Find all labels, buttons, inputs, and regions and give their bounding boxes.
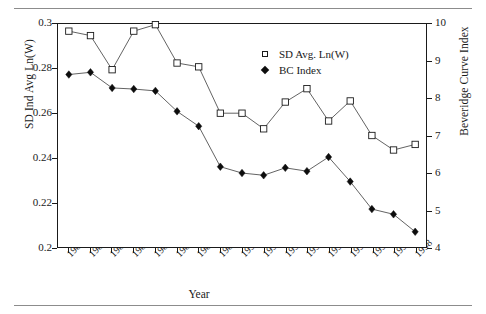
y-tick-label-left-text: 0.3 [18,17,52,28]
y-tick-left [52,248,57,249]
data-point-sd-avg [390,147,396,153]
data-point-sd-avg [87,32,93,38]
data-point-sd-avg [260,126,266,132]
data-point-bc-index [217,163,223,171]
chart-legend: SD Avg. Ln(W) BC Index [262,47,349,79]
plot-area [58,24,426,247]
data-point-bc-index [390,211,396,219]
series-canvas [58,24,426,247]
y-tick-label-right: 6 [435,167,451,178]
data-point-sd-avg [152,21,158,27]
data-point-bc-index [196,122,202,130]
plot-frame [57,23,427,248]
x-axis-title: Year [0,288,486,300]
data-point-sd-avg [412,141,418,147]
data-point-bc-index [412,228,418,236]
data-point-bc-index [152,87,158,95]
data-point-sd-avg [325,118,331,124]
data-point-bc-index [282,164,288,172]
y-tick-right [427,61,432,62]
y-tick-label-left-text: 0.28 [18,62,52,73]
data-point-bc-index [87,69,93,77]
y-tick-right [427,173,432,174]
open-square-icon [262,51,276,57]
data-point-bc-index [174,108,180,116]
y-tick-label-right: 4 [435,242,451,253]
legend-label-bc-index: BC Index [276,63,321,77]
data-point-sd-avg [109,67,115,73]
data-point-bc-index [261,171,267,179]
chart-figure: SD Ind Avg Ln(W) Beveridge Curve Index Y… [0,0,486,314]
y-tick-right [427,136,432,137]
legend-item-bc-index: BC Index [262,63,349,77]
y-tick-right [427,23,432,24]
filled-diamond-icon [262,67,276,73]
y-axis-title-right: Beveridge Curve Index [458,0,470,166]
x-axis-title-text: Year [188,288,209,300]
data-point-sd-avg [66,28,72,34]
y-tick-label-right: 9 [435,55,451,66]
y-tick-label-right: 5 [435,205,451,216]
y-tick-label-right: 10 [435,17,451,28]
data-point-sd-avg [174,60,180,66]
data-point-sd-avg [239,110,245,116]
series-line-sd-avg [69,25,415,150]
y-tick-label-right: 8 [435,92,451,103]
y-tick-right [427,211,432,212]
data-point-sd-avg [304,85,310,91]
data-point-sd-avg [282,99,288,105]
data-point-bc-index [131,85,137,93]
y-tick-label-left-text: 0.2 [18,242,52,253]
series-line-bc-index [69,72,415,231]
y-tick-label-left-text: 0.24 [18,152,52,163]
data-point-sd-avg [217,110,223,116]
data-point-bc-index [66,71,72,79]
data-point-bc-index [109,84,115,92]
data-point-sd-avg [196,64,202,70]
y-axis-title-left: SD Ind Avg Ln(W) [23,9,35,159]
data-point-bc-index [239,169,245,177]
data-point-sd-avg [369,132,375,138]
data-point-sd-avg [347,98,353,104]
y-tick-label-left-text: 0.22 [18,197,52,208]
legend-label-sd-avg: SD Avg. Ln(W) [276,47,349,61]
y-tick-right [427,98,432,99]
data-point-sd-avg [131,28,137,34]
y-tick-label-left-text: 0.26 [18,107,52,118]
data-point-bc-index [304,167,310,175]
legend-item-sd-avg: SD Avg. Ln(W) [262,47,349,61]
y-tick-label-right: 7 [435,130,451,141]
